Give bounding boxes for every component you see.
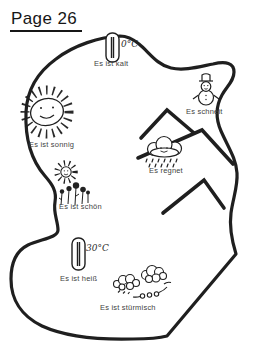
label-es-ist-schoen: Es ist schön (59, 203, 102, 211)
thermometer-cold-icon (106, 33, 119, 62)
storm-clouds-icon (114, 266, 172, 299)
worksheet-page: Page 26 0°C (0, 0, 265, 343)
label-es-ist-sonnig: Es ist sonnig (29, 141, 74, 149)
label-es-regnet: Es regnet (149, 167, 183, 175)
thermometer-hot-icon (72, 238, 85, 270)
label-es-ist-stuermisch: Es ist stürmisch (100, 304, 156, 312)
label-es-ist-kalt: Es ist kalt (94, 60, 128, 68)
worksheet-canvas: 0°C (0, 0, 265, 343)
mountain-peak (163, 180, 224, 213)
temp-hot-value: 30°C (86, 243, 109, 253)
sun-icon (25, 90, 69, 134)
wind-swirl-icon (118, 282, 171, 298)
label-es-ist-heiss: Es ist heiß (60, 275, 97, 283)
temp-cold-value: 0°C (121, 39, 138, 49)
snowman-icon (193, 74, 219, 105)
small-sun-icon (57, 163, 75, 181)
cloud-puff (114, 275, 140, 291)
cloud-puff (142, 266, 167, 283)
label-es-schneit: Es schneit (186, 108, 223, 116)
